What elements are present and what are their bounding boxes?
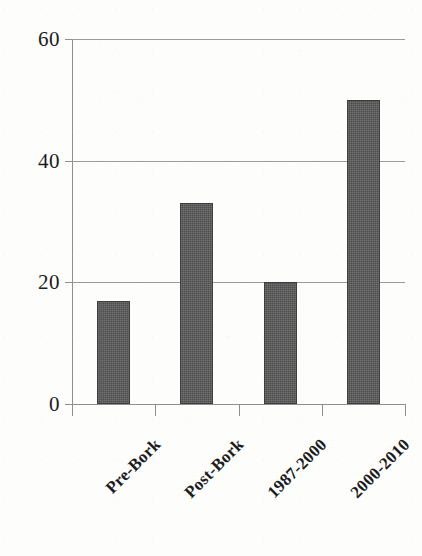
bar-2000-2010 xyxy=(347,100,380,404)
bar-pre-bork xyxy=(97,301,130,404)
y-tick-label-40: 40 xyxy=(38,150,60,171)
x-tick-mark-4 xyxy=(405,404,406,416)
y-tick-label-20: 20 xyxy=(38,272,60,293)
x-tick-mark-3 xyxy=(322,404,323,416)
y-tick-mark-60 xyxy=(65,39,72,40)
y-tick-mark-0 xyxy=(65,404,72,405)
bar-1987-2000 xyxy=(264,282,297,404)
bar-chart: 0204060 Pre-BorkPost-Bork1987-20002000-2… xyxy=(0,0,422,556)
y-tick-label-0: 0 xyxy=(49,394,60,415)
y-tick-label-60: 60 xyxy=(38,29,60,50)
x-tick-mark-0 xyxy=(72,404,73,416)
bar-post-bork xyxy=(180,203,213,404)
bars-layer xyxy=(72,39,405,404)
x-tick-mark-2 xyxy=(239,404,240,416)
y-tick-mark-40 xyxy=(65,161,72,162)
x-tick-mark-1 xyxy=(155,404,156,416)
y-tick-mark-20 xyxy=(65,282,72,283)
